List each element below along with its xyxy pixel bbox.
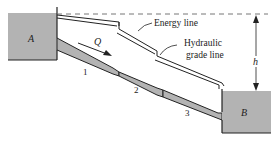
head-dimension: h [251,15,261,91]
pipe-system-diagram: A B Q 1 2 3 Energy line [0,0,275,141]
reservoir-b-label: B [241,107,247,118]
pipe-segment-3 [163,90,222,120]
reservoir-a: A [8,7,57,60]
pipe-segment-1 [57,38,119,76]
reservoir-b: B [222,89,271,133]
energy-line-leader [138,23,152,31]
hgl-leader [160,45,177,55]
segment-1-label: 1 [83,67,88,77]
pipe-segment-2 [119,72,163,97]
segment-3-label: 3 [185,108,190,118]
reservoir-a-label: A [27,33,35,44]
head-label: h [253,56,258,67]
hgl-label-line1: Hydraulic [184,38,222,48]
flow-label: Q [94,36,102,47]
energy-line-label: Energy line [154,18,198,28]
hgl-label-line2: grade line [186,50,224,60]
segment-2-label: 2 [134,85,139,95]
